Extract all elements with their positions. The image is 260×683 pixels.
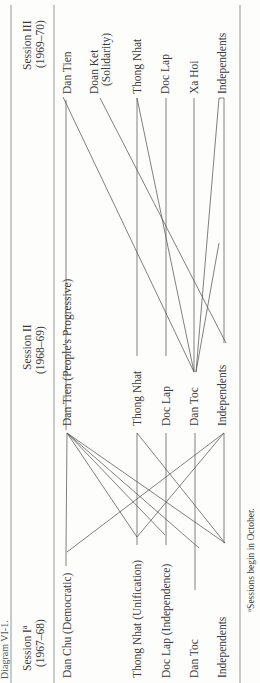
header-session-1: Session Ia — [20, 625, 33, 671]
s1-independents: Independents — [216, 616, 229, 678]
s3-thong-nhat: Thong Nhat — [131, 38, 144, 94]
party-transition-diagram: Diagram VI-1. Session Ia (1967–68) Sessi… — [0, 0, 260, 683]
s2-dan-toc: Dan Toc — [188, 387, 200, 426]
s3-doan-ket: Doan Ket — [88, 49, 100, 94]
s3-dan-tien: Dan Tien — [61, 51, 73, 94]
header-session-3-years: (1969–70) — [34, 20, 47, 68]
s3-solidarity: (Solidarity) — [100, 33, 113, 86]
s2-independents: Independents — [216, 364, 229, 426]
svg-text:Session Ia: Session Ia — [20, 625, 33, 671]
header-session-3: Session III — [21, 20, 33, 70]
diagram-page: Diagram VI-1. Session Ia (1967–68) Sessi… — [0, 0, 260, 683]
s3-independents: Independents — [216, 32, 229, 94]
header-session-2: Session II — [21, 324, 33, 370]
s2-doc-lap: Doc Lap — [160, 386, 173, 426]
diagram-title-fragment: Diagram VI-1. — [0, 620, 10, 679]
edges-s1-to-s2 — [66, 433, 225, 590]
header-session-2-years: (1968–69) — [34, 326, 47, 374]
s3-doc-lap: Doc Lap — [159, 54, 172, 94]
s1-dan-chu: Dan Chu (Democratic) — [61, 572, 74, 678]
s3-xa-hoi: Xa Hoi — [188, 60, 200, 94]
s1-dan-toc: Dan Toc — [188, 639, 200, 678]
s2-thong-nhat: Thong Nhat — [131, 370, 144, 426]
s1-doc-lap: Doc Lap (Independence) — [160, 564, 173, 678]
s1-thong-nhat: Thong Nhat (Unification) — [131, 560, 144, 678]
footnote: aSessions begin in October. — [245, 508, 256, 612]
edges-s2-to-s3 — [63, 97, 226, 430]
header-session-1-years: (1967–68) — [34, 619, 47, 667]
s2-dan-tien: Dan Tien (People's Progressive) — [61, 278, 74, 426]
